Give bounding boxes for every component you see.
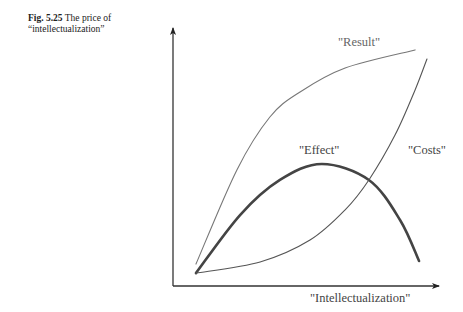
series-line-effect (196, 164, 419, 273)
annotation-costs: "Costs" (408, 143, 446, 157)
annotation-result: "Result" (338, 35, 380, 49)
x-axis-label: "Intellectualization" (310, 291, 410, 305)
annotation-effect: "Effect" (299, 143, 340, 157)
chart: "Intellectualization" "Result""Effect""C… (0, 0, 463, 312)
